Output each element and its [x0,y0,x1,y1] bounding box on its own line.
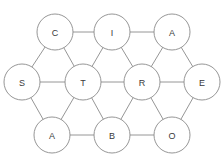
graph-edge-c-s [32,47,45,67]
graph-edge-a-e [181,47,192,66]
node-label-c: C [52,28,59,38]
graph-edge-r-b [121,98,133,120]
graph-node-t[interactable]: T [65,64,101,100]
graph-node-c[interactable]: C [37,14,73,50]
graph-edge-t-a [61,98,74,120]
node-label-b: B [109,131,115,141]
node-label-e: E [199,78,205,88]
node-label-t: T [80,78,86,88]
graph-edge-e-o [181,98,193,120]
graph-edge-c-t [64,48,74,67]
graph-edge-a-r [151,47,162,66]
graph-node-s[interactable]: S [4,64,40,100]
graph-edge-s-a [31,98,43,120]
graph-diagram: CIASTREABO [0,0,223,163]
graph-edge-i-t [92,48,103,67]
graph-node-b[interactable]: B [94,117,130,153]
node-label-s: S [19,78,25,88]
graph-node-i[interactable]: I [94,14,130,50]
node-layer: CIASTREABO [4,14,220,153]
graph-node-r[interactable]: R [124,64,160,100]
graph-node-a1[interactable]: A [154,14,190,50]
node-label-i: I [111,28,114,38]
node-label-a1: A [169,28,175,38]
graph-edge-t-b [92,98,104,119]
graph-node-a2[interactable]: A [34,117,70,153]
node-label-a2: A [49,131,55,141]
graph-edge-i-r [121,47,132,66]
node-label-r: R [139,78,146,88]
graph-node-e[interactable]: E [184,64,220,100]
node-label-o: O [168,131,175,141]
graph-edge-r-o [151,98,163,120]
graph-node-o[interactable]: O [154,117,190,153]
